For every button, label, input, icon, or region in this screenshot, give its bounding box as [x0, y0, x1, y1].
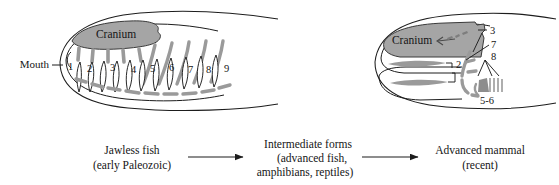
mammal-callout-number-8: 8: [491, 51, 496, 62]
gill-arch-number-1: 1: [68, 61, 73, 72]
mouth-label: Mouth: [20, 58, 50, 70]
fish-upper-gill-bars: [78, 48, 141, 62]
flow-step-intermediate-forms: Intermediate forms (advanced fish, amphi…: [257, 138, 354, 179]
mammal-lower-jaw-bone: [390, 80, 448, 86]
middle-ear-ossicles: [475, 78, 502, 95]
gill-arch-number-5: 5: [150, 63, 155, 74]
mammal-callout-number-3: 3: [490, 25, 495, 36]
flow-step-jawless-fish-line-2: (early Paleozoic): [93, 159, 171, 172]
flow-step-intermediate-forms-line-1: Intermediate forms: [264, 138, 352, 150]
gill-arch-number-7: 7: [188, 64, 193, 75]
gill-arch-number-9: 9: [224, 63, 229, 74]
gill-arch-number-3: 3: [110, 62, 115, 73]
gill-arch-number-6: 6: [169, 62, 174, 73]
mammal-lower-jaw-outline: [379, 67, 462, 76]
flow-step-jawless-fish: Jawless fish (early Paleozoic): [93, 144, 171, 172]
mammal-callout-number-5-6: 5-6: [480, 95, 494, 106]
gill-arch-number-8: 8: [206, 64, 211, 75]
gill-arch-number-4: 4: [131, 64, 137, 75]
jawless-fish-head-panel: Cranium: [20, 11, 278, 110]
advanced-mammal-head-panel: Cranium: [375, 13, 556, 109]
mammal-cranium-label: Cranium: [392, 34, 432, 46]
flow-step-advanced-mammal-line-1: Advanced mammal: [435, 144, 525, 156]
mammal-upper-jaw-bone: [388, 61, 446, 67]
flow-step-intermediate-forms-line-2: (advanced fish,: [277, 152, 347, 165]
mammal-lower-jaw-inner: [379, 76, 462, 100]
flow-step-advanced-mammal-line-2: (recent): [462, 159, 498, 172]
flow-step-intermediate-forms-line-3: amphibians, reptiles): [257, 166, 354, 179]
mammal-callout-number-7: 7: [491, 39, 496, 50]
flow-step-jawless-fish-line-1: Jawless fish: [104, 144, 160, 156]
mammal-head-outline-lower: [375, 62, 556, 109]
flow-step-advanced-mammal: Advanced mammal (recent): [435, 144, 525, 172]
evolution-flow-diagram: Jawless fish (early Paleozoic) Intermedi…: [93, 138, 525, 179]
gill-arch-number-2: 2: [87, 63, 92, 74]
fish-cranium-label: Cranium: [96, 28, 136, 40]
evolution-of-jaw-and-ear-bones-figure: Cranium: [0, 0, 559, 185]
mammal-callout-number-2: 2: [456, 59, 461, 70]
